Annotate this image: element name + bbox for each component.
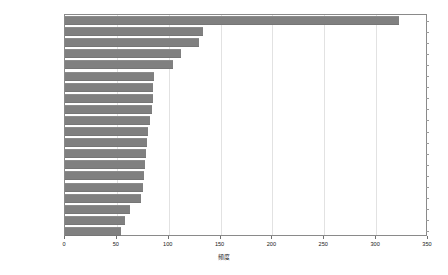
minor-tick <box>426 65 429 66</box>
x-tick-mark-250 <box>323 236 324 239</box>
minor-tick <box>426 165 429 166</box>
x-tick-label-100: 100 <box>153 240 183 248</box>
bar-chart: 行う非常ミャンマー発展思う良い国家話し合い建設必要政府国軍地域国民国任務言う入る… <box>0 0 448 275</box>
minor-tick <box>426 76 429 77</box>
bar-row <box>65 149 428 158</box>
x-tick-mark-50 <box>116 236 117 239</box>
bar <box>65 171 144 180</box>
x-tick-label-350: 350 <box>412 240 442 248</box>
bar <box>65 72 154 81</box>
bar <box>65 16 399 25</box>
minor-tick <box>426 176 429 177</box>
bar-row <box>65 38 428 47</box>
x-tick-mark-200 <box>271 236 272 239</box>
bar-row <box>65 160 428 169</box>
bar-series <box>65 15 426 235</box>
bar-row <box>65 227 428 236</box>
minor-tick <box>426 87 429 88</box>
minor-tick <box>426 43 429 44</box>
bar <box>65 60 173 69</box>
x-tick-mark-100 <box>168 236 169 239</box>
minor-tick <box>426 98 429 99</box>
x-tick-mark-300 <box>375 236 376 239</box>
bar <box>65 83 153 92</box>
bar <box>65 149 146 158</box>
minor-tick <box>426 198 429 199</box>
minor-tick <box>426 32 429 33</box>
bar <box>65 105 152 114</box>
bar-row <box>65 83 428 92</box>
bar <box>65 227 121 236</box>
bar-row <box>65 94 428 103</box>
bar <box>65 138 147 147</box>
bar-row <box>65 72 428 81</box>
bar <box>65 205 130 214</box>
bar-row <box>65 116 428 125</box>
x-tick-mark-0 <box>64 236 65 239</box>
minor-tick <box>426 54 429 55</box>
minor-tick <box>426 187 429 188</box>
bar <box>65 38 199 47</box>
minor-tick <box>426 231 429 232</box>
bar-row <box>65 205 428 214</box>
bar-row <box>65 27 428 36</box>
plot-area <box>64 14 427 236</box>
x-tick-label-0: 0 <box>49 240 79 248</box>
bar-row <box>65 49 428 58</box>
bar <box>65 127 148 136</box>
minor-tick <box>426 21 429 22</box>
bar-row <box>65 216 428 225</box>
x-tick-label-150: 150 <box>205 240 235 248</box>
bar <box>65 27 203 36</box>
bar-row <box>65 171 428 180</box>
bar <box>65 116 150 125</box>
bar <box>65 49 181 58</box>
minor-tick <box>426 132 429 133</box>
bar <box>65 183 143 192</box>
x-tick-mark-150 <box>220 236 221 239</box>
bar-row <box>65 60 428 69</box>
minor-tick <box>426 120 429 121</box>
x-tick-label-250: 250 <box>308 240 338 248</box>
minor-tick <box>426 154 429 155</box>
bar <box>65 216 125 225</box>
bar-row <box>65 16 428 25</box>
minor-tick <box>426 209 429 210</box>
bar-row <box>65 105 428 114</box>
bar <box>65 94 153 103</box>
bar-row <box>65 138 428 147</box>
bar <box>65 160 145 169</box>
x-axis-title: 頻度 <box>0 252 448 261</box>
minor-tick <box>426 220 429 221</box>
bar-row <box>65 194 428 203</box>
minor-tick <box>426 109 429 110</box>
x-tick-mark-350 <box>427 236 428 239</box>
bar <box>65 194 141 203</box>
minor-tick <box>426 143 429 144</box>
x-tick-label-300: 300 <box>360 240 390 248</box>
x-tick-label-50: 50 <box>101 240 131 248</box>
bar-row <box>65 183 428 192</box>
bar-row <box>65 127 428 136</box>
x-tick-label-200: 200 <box>256 240 286 248</box>
